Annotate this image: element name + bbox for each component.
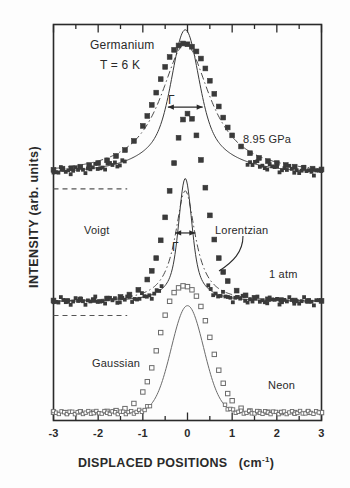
data-point-marker [221, 381, 225, 385]
annotation-gamma-mid: Γ [172, 240, 179, 254]
annotation-fit-lorentzian: Lorentzian [215, 224, 268, 236]
data-point-marker [154, 256, 159, 261]
data-point-marker [190, 116, 195, 121]
data-point-marker [71, 300, 75, 304]
data-point-marker [93, 162, 97, 166]
data-point-marker [265, 168, 269, 172]
data-point-marker [138, 297, 142, 301]
data-point-marker [302, 165, 306, 169]
data-point-marker [185, 284, 189, 288]
data-point-marker [230, 133, 235, 138]
data-point-marker [230, 399, 234, 403]
data-point-marker [103, 168, 107, 172]
data-point-marker [118, 164, 122, 168]
data-point-marker [285, 300, 289, 304]
data-point-marker [181, 284, 185, 288]
data-point-marker [207, 78, 212, 83]
data-point-marker [203, 66, 208, 71]
annotation-gamma-top: Γ [168, 93, 175, 107]
data-point-marker [203, 185, 208, 190]
data-point-marker [256, 295, 260, 299]
annotation-fit-voigt: Voigt [84, 224, 109, 236]
lorentzian-leader-line [219, 236, 243, 271]
data-point-marker [285, 168, 289, 172]
data-point-marker [190, 288, 194, 292]
data-point-marker [176, 135, 181, 140]
data-point-marker [123, 148, 128, 153]
data-point-marker [118, 300, 122, 304]
annotation-pressure-mid: 1 atm [269, 268, 298, 280]
data-point-marker [57, 301, 61, 305]
data-point-marker [66, 168, 70, 172]
data-point-marker [221, 115, 226, 120]
data-point-marker [302, 295, 306, 299]
x-axis-label: DISPLACED POSITIONS (cm-1) [78, 455, 274, 470]
data-point-marker [149, 268, 154, 273]
data-point-marker [176, 43, 181, 48]
x-tick-label: 1 [220, 427, 244, 439]
data-point-marker [167, 299, 171, 303]
annotation-sample: Germanium [90, 38, 154, 52]
data-point-marker [300, 169, 304, 173]
data-point-marker [194, 294, 198, 298]
data-point-marker [219, 294, 223, 298]
data-point-marker [319, 299, 323, 303]
x-tick-label: 3 [310, 427, 334, 439]
x-tick-label: -2 [86, 427, 110, 439]
data-point-marker [223, 403, 226, 406]
data-point-marker [172, 290, 176, 294]
data-point-marker [212, 237, 217, 242]
data-point-marker [194, 133, 199, 138]
data-point-marker [228, 296, 232, 300]
data-point-marker [154, 90, 159, 95]
x-axis-units-close: ) [270, 456, 274, 470]
data-point-marker [149, 102, 154, 107]
data-point-marker [209, 287, 213, 291]
data-point-marker [275, 165, 279, 169]
data-point-marker [150, 366, 154, 370]
fit-curve-voigt [54, 179, 322, 301]
data-point-marker [199, 158, 204, 163]
annotation-temperature: T = 6 K [100, 58, 140, 72]
data-point-marker [241, 294, 245, 298]
data-point-marker [163, 215, 168, 220]
data-point-marker [145, 379, 149, 383]
annotation-reference: Neon [268, 379, 295, 391]
data-point-marker [113, 296, 117, 300]
data-point-marker [167, 188, 172, 193]
data-point-marker [217, 368, 221, 372]
data-point-marker [317, 411, 320, 414]
data-point-marker [248, 151, 253, 156]
data-point-marker [246, 301, 250, 305]
data-point-marker [158, 77, 163, 82]
data-point-marker [93, 295, 97, 299]
figure-root: INTENSITY (arb. units) DISPLACED POSITIO… [0, 0, 350, 488]
data-point-marker [132, 401, 136, 405]
annotation-fit-gaussian: Gaussian [92, 357, 140, 369]
data-point-marker [212, 352, 216, 356]
data-point-marker [113, 160, 117, 164]
data-point-marker [185, 111, 190, 116]
y-axis-label-wrap: INTENSITY (arb. units) [24, 112, 42, 322]
data-point-marker [300, 299, 304, 303]
data-point-marker [150, 297, 154, 301]
data-point-marker [290, 298, 294, 302]
data-point-marker [221, 290, 225, 294]
x-axis-units-open: (cm [239, 456, 262, 470]
data-point-marker [81, 299, 85, 303]
annotation-pressure-top: 8.95 GPa [243, 133, 291, 145]
data-point-marker [231, 408, 234, 411]
data-point-marker [141, 390, 145, 394]
data-point-marker [157, 289, 161, 293]
data-point-marker [310, 170, 314, 174]
y-axis-label: INTENSITY (arb. units) [27, 146, 41, 288]
data-point-marker [154, 349, 158, 353]
data-point-marker [103, 302, 107, 306]
data-point-marker [84, 171, 88, 175]
data-point-marker [206, 283, 210, 287]
data-point-marker [128, 295, 132, 299]
data-point-marker [81, 168, 85, 172]
data-point-marker [132, 139, 137, 144]
data-point-marker [310, 300, 314, 304]
data-point-marker [114, 154, 119, 159]
